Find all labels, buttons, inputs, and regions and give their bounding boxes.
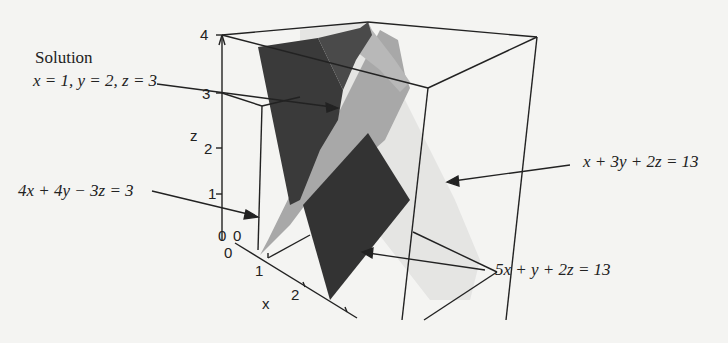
z-tick-2: 2	[204, 141, 212, 157]
solution-title: Solution	[35, 48, 93, 68]
plane-equation-5x-y-2z-13: 5x + y + 2z = 13	[495, 260, 611, 280]
z-axis-label: z	[190, 128, 198, 144]
z-tick-0: 0	[218, 228, 226, 244]
plane-intersection-diagram: 4 3 2 1 0 z 0 0 1 2 x Solution x = 1, y …	[0, 0, 728, 343]
solution-values: x = 1, y = 2, z = 3	[33, 71, 157, 91]
z-axis	[216, 35, 225, 240]
z-tick-1: 1	[208, 186, 216, 202]
x-tick-0: 0	[224, 245, 232, 261]
plane-equation-4x-4y-3z-3: 4x + 4y − 3z = 3	[18, 181, 134, 201]
plane-equation-x-3y-2z-13: x + 3y + 2z = 13	[583, 152, 699, 172]
x-axis-label: x	[262, 296, 270, 312]
z-tick-3: 3	[202, 86, 210, 102]
x-tick-1: 1	[255, 263, 263, 279]
x-tick-2: 2	[291, 287, 299, 303]
y-tick-0: 0	[233, 228, 241, 244]
z-tick-4: 4	[200, 27, 208, 43]
